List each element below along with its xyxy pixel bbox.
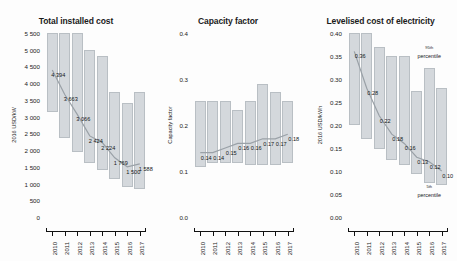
x-axis-line bbox=[194, 231, 294, 232]
y-tick-label: 0.40 bbox=[308, 30, 342, 37]
y-tick-label: 0.15 bbox=[308, 145, 342, 152]
x-tick-label: 2014 bbox=[250, 242, 256, 261]
x-tick-mark bbox=[77, 232, 78, 236]
weighted-average-line bbox=[46, 33, 146, 217]
plot-area-lcoe: 0.000.050.100.150.200.250.300.350.400.36… bbox=[348, 33, 448, 217]
x-tick-mark bbox=[250, 232, 251, 236]
data-label: 0.28 bbox=[367, 90, 378, 96]
data-label: 0.16 bbox=[251, 145, 262, 151]
x-tick-mark bbox=[115, 232, 116, 236]
x-tick-label: 2012 bbox=[225, 242, 231, 261]
x-tick-mark bbox=[200, 232, 201, 236]
x-tick-label: 2017 bbox=[441, 242, 447, 261]
y-tick-label: 1 500 bbox=[6, 163, 40, 170]
x-tick-label: 2016 bbox=[127, 242, 133, 261]
x-axis-right-cap bbox=[447, 228, 448, 232]
x-tick-label: 2016 bbox=[429, 242, 435, 261]
x-tick-mark bbox=[392, 232, 393, 236]
x-tick-mark bbox=[367, 232, 368, 236]
data-label: 2 424 bbox=[89, 138, 103, 144]
x-tick-label: 2011 bbox=[64, 242, 70, 261]
x-tick-mark bbox=[404, 232, 405, 236]
y-tick-label: 0.4 bbox=[154, 30, 188, 37]
x-tick-mark bbox=[90, 232, 91, 236]
x-tick-label: 2016 bbox=[275, 242, 281, 261]
data-label: 0.10 bbox=[442, 173, 453, 179]
y-tick-label: 0.05 bbox=[308, 191, 342, 198]
y-tick-label: 0.25 bbox=[308, 99, 342, 106]
x-tick-label: 2017 bbox=[287, 242, 293, 261]
x-axis-right-cap bbox=[145, 228, 146, 232]
x-tick-label: 2013 bbox=[391, 242, 397, 261]
x-tick-label: 2014 bbox=[102, 242, 108, 261]
x-tick-label: 2010 bbox=[354, 242, 360, 261]
y-tick-label: 0.20 bbox=[308, 122, 342, 129]
x-tick-label: 2013 bbox=[237, 242, 243, 261]
x-tick-label: 2015 bbox=[416, 242, 422, 261]
data-label: 0.17 bbox=[263, 141, 274, 147]
y-tick-label: 0 bbox=[6, 214, 40, 221]
x-tick-label: 2013 bbox=[89, 242, 95, 261]
data-label: 0.14 bbox=[213, 155, 224, 161]
x-tick-label: 2010 bbox=[52, 242, 58, 261]
panel-title-capacity-factor: Capacity factor bbox=[152, 16, 304, 26]
panel-lcoe: Levelised cost of electricity 2016 USD/k… bbox=[304, 0, 457, 261]
x-tick-mark bbox=[379, 232, 380, 236]
y-tick-label: 2 500 bbox=[6, 130, 40, 137]
data-label: 1 588 bbox=[139, 166, 153, 172]
x-axis-line bbox=[46, 231, 146, 232]
x-tick-label: 2015 bbox=[262, 242, 268, 261]
y-tick-label: 0.00 bbox=[308, 214, 342, 221]
x-tick-mark bbox=[275, 232, 276, 236]
x-tick-mark bbox=[140, 232, 141, 236]
panel-title-total-installed-cost: Total installed cost bbox=[0, 16, 152, 26]
x-tick-mark bbox=[127, 232, 128, 236]
y-tick-label: 1 000 bbox=[6, 180, 40, 187]
annotation-lower-percentile: 5thpercentile bbox=[418, 185, 441, 198]
three-panel-cost-figure: Total installed cost 2016 USD/kW 05001 0… bbox=[0, 0, 457, 261]
y-tick-label: 4 500 bbox=[6, 63, 40, 70]
x-tick-mark bbox=[417, 232, 418, 236]
x-tick-label: 2010 bbox=[200, 242, 206, 261]
data-label: 3 663 bbox=[64, 96, 78, 102]
y-tick-label: 0.1 bbox=[154, 168, 188, 175]
plot-area-total-installed-cost: 05001 0001 5002 0002 5003 0003 5004 0004… bbox=[46, 33, 146, 217]
x-tick-mark bbox=[288, 232, 289, 236]
x-axis-left-cap bbox=[194, 228, 195, 232]
plot-area-capacity-factor: 0.00.10.20.30.40.140.140.150.160.160.170… bbox=[194, 33, 294, 217]
y-tick-label: 3 500 bbox=[6, 96, 40, 103]
data-label: 0.16 bbox=[405, 145, 416, 151]
panel-total-installed-cost: Total installed cost 2016 USD/kW 05001 0… bbox=[0, 0, 152, 261]
y-tick-label: 3 000 bbox=[6, 113, 40, 120]
panel-title-lcoe: Levelised cost of electricity bbox=[304, 16, 457, 26]
x-tick-label: 2011 bbox=[366, 242, 372, 261]
x-tick-mark bbox=[65, 232, 66, 236]
y-tick-label: 0.30 bbox=[308, 76, 342, 83]
y-tick-label: 0.2 bbox=[154, 122, 188, 129]
x-tick-label: 2012 bbox=[379, 242, 385, 261]
data-label: 2 224 bbox=[101, 145, 115, 151]
x-tick-label: 2012 bbox=[77, 242, 83, 261]
x-tick-mark bbox=[263, 232, 264, 236]
data-label: 0.36 bbox=[355, 53, 366, 59]
x-axis-left-cap bbox=[348, 228, 349, 232]
x-tick-mark bbox=[354, 232, 355, 236]
x-tick-mark bbox=[238, 232, 239, 236]
weighted-average-line bbox=[194, 33, 294, 217]
y-tick-label: 0.10 bbox=[308, 168, 342, 175]
y-tick-label: 2 000 bbox=[6, 147, 40, 154]
annotation-upper-percentile: 95thpercentile bbox=[418, 46, 441, 59]
x-tick-mark bbox=[225, 232, 226, 236]
data-label: 0.22 bbox=[380, 118, 391, 124]
x-axis-line bbox=[348, 231, 448, 232]
x-tick-label: 2014 bbox=[404, 242, 410, 261]
y-tick-label: 5 500 bbox=[6, 30, 40, 37]
x-tick-label: 2015 bbox=[114, 242, 120, 261]
data-label: 0.18 bbox=[392, 136, 403, 142]
y-tick-label: 0.0 bbox=[154, 214, 188, 221]
x-axis-right-cap bbox=[293, 228, 294, 232]
x-tick-label: 2017 bbox=[139, 242, 145, 261]
data-label: 0.18 bbox=[288, 136, 299, 142]
x-tick-mark bbox=[429, 232, 430, 236]
y-tick-label: 0.35 bbox=[308, 53, 342, 60]
